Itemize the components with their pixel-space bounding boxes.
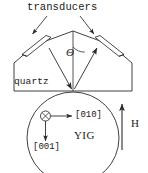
figure-canvas: transducers Θ quartz [010] [001] YIG H [0,0,148,173]
label-direction-001: [001] [33,143,60,152]
leader-arrow-right [80,16,94,34]
yig-sphere-outline [27,92,119,173]
label-transducers: transducers [27,2,97,13]
label-yig: YIG [74,130,95,141]
label-direction-010: [010] [75,111,102,120]
label-quartz: quartz [14,77,49,87]
label-theta: Θ [66,47,74,58]
leader-arrow-left [33,16,48,34]
label-field-h: H [131,118,139,129]
